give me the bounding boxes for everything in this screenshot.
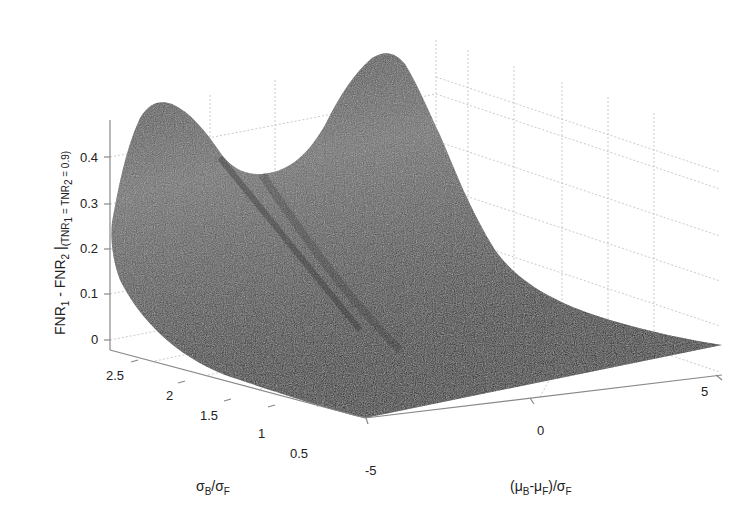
z-axis-title: FNR1 - FNR2 |(TNR1 = TNR2 = 0.9) — [52, 151, 74, 335]
z-tick-0.4: 0.4 — [80, 150, 98, 165]
y-tick-1.5: 1.5 — [200, 408, 218, 423]
x-tick-0: 0 — [537, 423, 544, 438]
x-axis-title: (μB-μF)/σF — [510, 478, 572, 497]
y-tick-1: 1 — [258, 426, 265, 441]
z-tick-0: 0 — [91, 332, 98, 347]
surface — [111, 53, 722, 418]
surface-plot — [0, 0, 750, 523]
y-axis-title: σB/σF — [196, 478, 230, 497]
z-tick-0.1: 0.1 — [80, 286, 98, 301]
y-tick-2: 2 — [166, 388, 173, 403]
z-tick-0.3: 0.3 — [80, 196, 98, 211]
y-tick-0.5: 0.5 — [290, 446, 308, 461]
z-tick-0.2: 0.2 — [80, 241, 98, 256]
x-tick-5: 5 — [701, 384, 708, 399]
x-tick-neg5: -5 — [365, 463, 377, 478]
y-tick-2.5: 2.5 — [106, 368, 124, 383]
